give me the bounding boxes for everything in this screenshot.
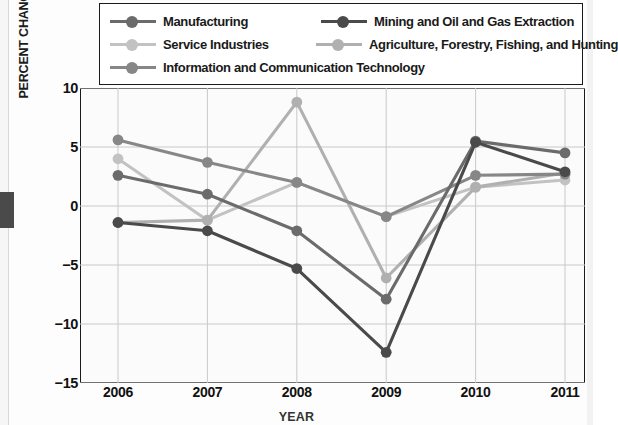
data-point xyxy=(381,347,392,358)
legend-label: Information and Communication Technology xyxy=(163,60,425,75)
data-point xyxy=(202,189,213,200)
legend-row: ManufacturingMining and Oil and Gas Extr… xyxy=(110,10,574,33)
legend-item[interactable]: Mining and Oil and Gas Extraction xyxy=(321,10,574,33)
legend-swatch-icon xyxy=(321,15,367,29)
data-point xyxy=(381,273,392,284)
data-point xyxy=(560,166,571,177)
data-point xyxy=(202,157,213,168)
data-point xyxy=(291,225,302,236)
page-edge-marker xyxy=(0,192,14,228)
page-right-margin xyxy=(587,0,593,425)
series-mining-and-oil-and-gas-extraction xyxy=(113,137,571,358)
legend-swatch-icon xyxy=(110,38,156,52)
x-axis-tick-label: 2011 xyxy=(550,384,579,400)
data-point xyxy=(113,153,124,164)
data-point xyxy=(113,135,124,146)
legend-item[interactable]: Information and Communication Technology xyxy=(110,56,326,79)
x-axis-tick-label: 2008 xyxy=(282,384,312,400)
data-point xyxy=(202,225,213,236)
data-point xyxy=(291,263,302,274)
data-point xyxy=(291,97,302,108)
x-axis-tick-label: 2007 xyxy=(192,384,222,400)
data-point xyxy=(113,170,124,181)
plot-svg xyxy=(80,88,585,383)
legend-item[interactable]: Service Industries xyxy=(110,33,316,56)
legend-swatch-icon xyxy=(110,15,156,29)
y-axis-tick-label: 10 xyxy=(36,80,78,96)
y-axis-tick-labels: 1050−5−10−15 xyxy=(30,0,78,425)
y-axis-tick-label: −10 xyxy=(36,316,78,332)
legend-row: Information and Communication Technology xyxy=(110,56,574,79)
legend-swatch-icon xyxy=(316,38,362,52)
x-axis-tick-label: 2006 xyxy=(103,384,133,400)
legend-swatch-icon xyxy=(110,61,156,75)
x-axis-tick-label: 2010 xyxy=(461,384,491,400)
chart-legend: ManufacturingMining and Oil and Gas Extr… xyxy=(99,3,583,85)
y-axis-tick-label: 5 xyxy=(36,139,78,155)
data-point xyxy=(381,294,392,305)
data-point xyxy=(470,170,481,181)
data-point xyxy=(381,211,392,222)
data-point xyxy=(113,217,124,228)
legend-row: Service IndustriesAgriculture, Forestry,… xyxy=(110,33,574,56)
series-layer xyxy=(113,97,571,358)
legend-label: Agriculture, Forestry, Fishing, and Hunt… xyxy=(369,37,618,52)
y-axis-tick-label: 0 xyxy=(36,198,78,214)
data-point xyxy=(202,215,213,226)
data-point xyxy=(560,148,571,159)
data-point xyxy=(470,182,481,193)
data-point xyxy=(291,177,302,188)
data-point xyxy=(470,137,481,148)
x-axis-title: YEAR xyxy=(0,410,593,422)
series-information-and-communication-technology xyxy=(113,135,571,223)
gridlines xyxy=(80,88,585,383)
legend-label: Manufacturing xyxy=(163,14,248,29)
legend-item[interactable]: Manufacturing xyxy=(110,10,321,33)
legend-item[interactable]: Agriculture, Forestry, Fishing, and Hunt… xyxy=(316,33,574,56)
y-axis-tick-label: −5 xyxy=(36,257,78,273)
x-axis-tick-label: 2009 xyxy=(371,384,401,400)
y-axis-tick-label: −15 xyxy=(36,375,78,391)
legend-label: Service Industries xyxy=(163,37,269,52)
legend-label: Mining and Oil and Gas Extraction xyxy=(374,14,574,29)
